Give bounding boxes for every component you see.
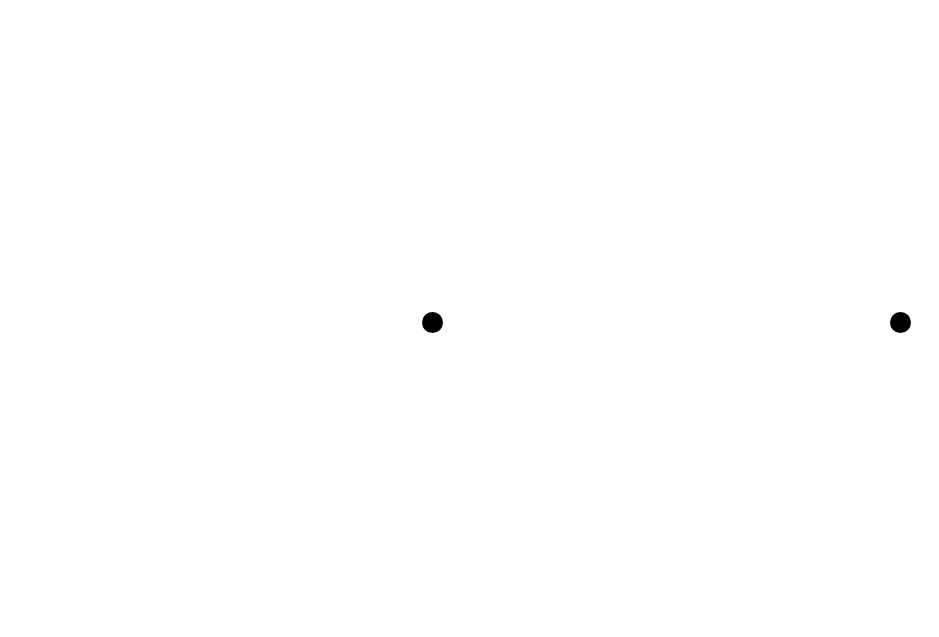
dot-right-mark xyxy=(890,312,911,333)
dot-left-mark xyxy=(422,312,443,333)
blank-document-page xyxy=(0,0,939,637)
